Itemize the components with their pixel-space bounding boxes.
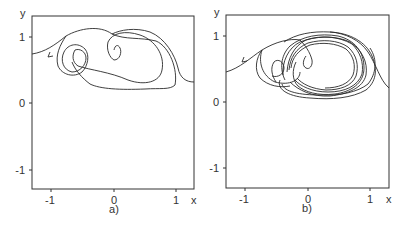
panel-b-caption: b) bbox=[302, 203, 312, 214]
panel-b bbox=[223, 15, 389, 191]
panel-b-arrow-icon bbox=[242, 57, 247, 62]
panel-a-ylabel: y bbox=[20, 8, 26, 19]
panel-a-ytick-0: 0 bbox=[9, 98, 25, 109]
panel-b-ytick-1: 1 bbox=[203, 31, 219, 42]
panel-b-frame bbox=[226, 15, 389, 188]
panel-b-xlabel: x bbox=[386, 194, 392, 205]
panel-a-xtick-1: 1 bbox=[173, 195, 179, 206]
panel-a-ytick-1: 1 bbox=[9, 32, 25, 43]
panel-b-ytick-0: 0 bbox=[203, 97, 219, 108]
panel-a-frame bbox=[32, 16, 194, 189]
panel-b-ytick-neg1: -1 bbox=[203, 163, 219, 174]
panel-a-trajectory bbox=[32, 28, 194, 89]
panel-a-xtick-neg1: -1 bbox=[45, 195, 55, 206]
panel-a-caption: a) bbox=[109, 204, 119, 215]
panel-a-arrow-icon bbox=[48, 52, 53, 57]
panel-a-ticks bbox=[29, 37, 176, 192]
panel-b-ylabel: y bbox=[214, 7, 220, 18]
panel-b-xtick-neg1: -1 bbox=[239, 194, 249, 205]
panel-a-ytick-neg1: -1 bbox=[9, 165, 25, 176]
panel-b-xtick-1: 1 bbox=[367, 194, 373, 205]
panel-b-trajectory bbox=[226, 32, 389, 99]
panel-b-ticks bbox=[223, 36, 370, 191]
panel-a-xlabel: x bbox=[191, 195, 197, 206]
panel-a bbox=[29, 16, 194, 192]
